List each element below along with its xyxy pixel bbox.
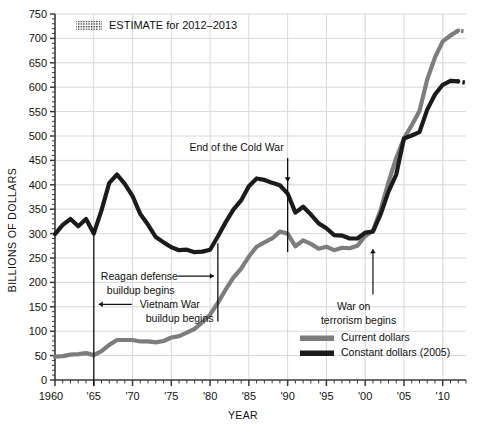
y-axis-tick-label: 600 — [29, 81, 47, 93]
cold-war-label: End of the Cold War — [189, 141, 284, 153]
x-axis-tick-label: 1960 — [39, 390, 63, 402]
reagan-label-line1: Reagan defense — [101, 270, 178, 282]
legend-label: Current dollars — [341, 331, 410, 343]
y-axis-tick-label: 0 — [41, 374, 47, 386]
y-axis-tick-label: 400 — [29, 179, 47, 191]
chart-canvas: 0501001502002503003504004505005506006507… — [0, 0, 482, 427]
y-axis-tick-label: 200 — [29, 276, 47, 288]
defense-spending-chart: 0501001502002503003504004505005506006507… — [0, 0, 482, 427]
estimate-pattern-swatch — [76, 21, 102, 30]
terrorism-label-line1: War on — [337, 300, 371, 312]
x-axis-tick-label: '10 — [436, 390, 450, 402]
x-axis-tick-label: '80 — [203, 390, 217, 402]
x-axis-tick-label: '95 — [319, 390, 333, 402]
x-axis-tick-label: '05 — [397, 390, 411, 402]
x-axis-tick-label: '90 — [280, 390, 294, 402]
y-axis-tick-label: 100 — [29, 325, 47, 337]
y-axis-tick-label: 550 — [29, 106, 47, 118]
y-axis-tick-label: 650 — [29, 57, 47, 69]
legend-label: Constant dollars (2005) — [341, 346, 450, 358]
x-axis-tick-label: '00 — [358, 390, 372, 402]
x-axis-tick-label: '85 — [242, 390, 256, 402]
estimate-segment-constant-dollars — [450, 81, 466, 83]
reagan-label-line2: buildup begins — [107, 284, 175, 296]
y-axis-tick-label: 350 — [29, 203, 47, 215]
x-axis-tick-label: '65 — [87, 390, 101, 402]
x-axis-tick-label: '75 — [164, 390, 178, 402]
y-axis-tick-label: 500 — [29, 130, 47, 142]
y-axis-tick-label: 300 — [29, 228, 47, 240]
x-axis-tick-label: '70 — [125, 390, 139, 402]
vietnam-label-line2: buildup begins — [146, 312, 214, 324]
y-axis-tick-label: 150 — [29, 301, 47, 313]
terrorism-label-line2: terrorism begins — [321, 314, 396, 326]
chart-background — [0, 0, 482, 427]
y-axis-title: BILLIONS OF DOLLARS — [6, 168, 18, 292]
legend-swatch — [300, 336, 334, 342]
x-axis-title: YEAR — [228, 409, 258, 421]
vietnam-label-line1: Vietnam War — [140, 298, 201, 310]
y-axis-tick-label: 250 — [29, 252, 47, 264]
y-axis-tick-label: 750 — [29, 8, 47, 20]
legend-swatch — [300, 351, 334, 357]
y-axis-tick-label: 50 — [35, 350, 47, 362]
estimate-key-label: ESTIMATE for 2012–2013 — [109, 19, 237, 31]
y-axis-tick-label: 700 — [29, 32, 47, 44]
y-axis-tick-label: 450 — [29, 154, 47, 166]
